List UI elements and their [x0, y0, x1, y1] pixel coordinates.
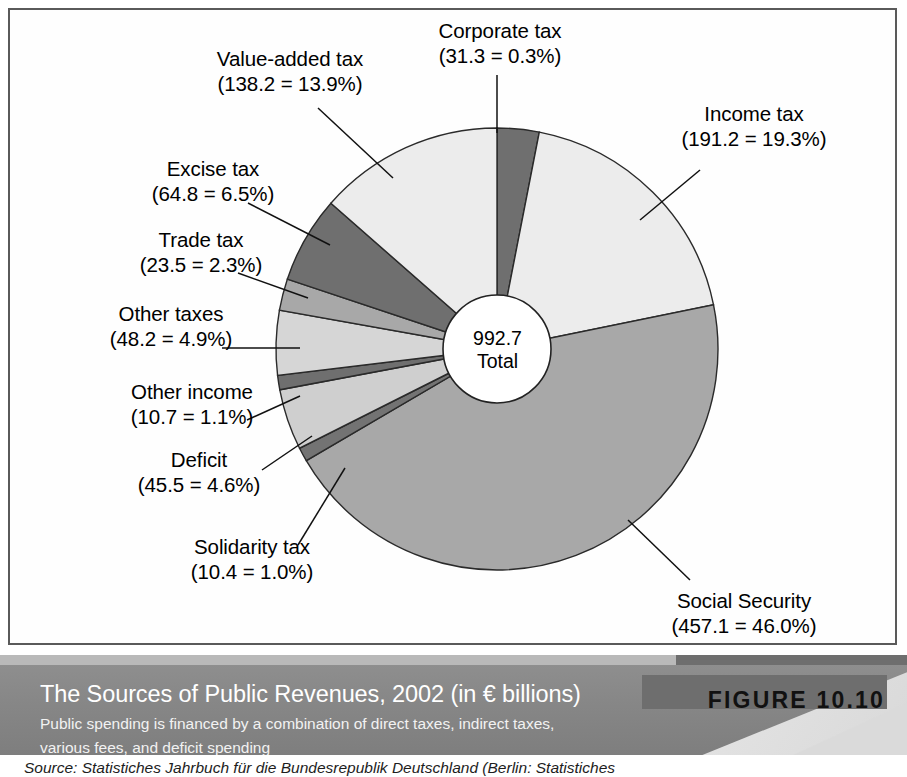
label-excise-tax: Excise tax (64.8 = 6.5%)	[108, 156, 318, 206]
label-solidarity-tax: Solidarity tax (10.4 = 1.0%)	[146, 534, 358, 584]
label-social-security-detail: (457.1 = 46.0%)	[624, 613, 864, 638]
label-solidarity-tax-detail: (10.4 = 1.0%)	[146, 559, 358, 584]
label-income-tax: Income tax (191.2 = 19.3%)	[638, 101, 870, 151]
label-value-added-tax: Value-added tax (138.2 = 13.9%)	[182, 46, 398, 96]
label-income-tax-name: Income tax	[638, 101, 870, 126]
label-corporate-tax: Corporate tax (31.3 = 0.3%)	[405, 18, 595, 68]
label-solidarity-tax-name: Solidarity tax	[146, 534, 358, 559]
label-trade-tax: Trade tax (23.5 = 2.3%)	[98, 227, 304, 277]
label-deficit-detail: (45.5 = 4.6%)	[96, 472, 302, 497]
label-deficit-name: Deficit	[96, 447, 302, 472]
label-value-added-tax-detail: (138.2 = 13.9%)	[182, 71, 398, 96]
label-value-added-tax-name: Value-added tax	[182, 46, 398, 71]
leader-value-added-tax	[318, 108, 393, 178]
label-trade-tax-detail: (23.5 = 2.3%)	[98, 252, 304, 277]
label-other-taxes-name: Other taxes	[60, 301, 282, 326]
figure-caption-band: FIGURE 10.10 The Sources of Public Reven…	[0, 655, 907, 755]
figure-number-label: FIGURE 10.10	[635, 687, 885, 714]
center-total-value: 992.7	[473, 327, 522, 349]
label-trade-tax-name: Trade tax	[98, 227, 304, 252]
figure-subtitle-line-2: various fees, and deficit spending	[40, 739, 270, 755]
pie-center-label: 992.7 Total	[440, 327, 555, 373]
label-other-taxes: Other taxes (48.2 = 4.9%)	[60, 301, 282, 351]
label-other-income-detail: (10.7 = 1.1%)	[80, 404, 304, 429]
leader-social-security	[628, 520, 690, 580]
label-income-tax-detail: (191.2 = 19.3%)	[638, 126, 870, 151]
label-other-income-name: Other income	[80, 379, 304, 404]
label-deficit: Deficit (45.5 = 4.6%)	[96, 447, 302, 497]
label-other-income: Other income (10.7 = 1.1%)	[80, 379, 304, 429]
label-corporate-tax-name: Corporate tax	[405, 18, 595, 43]
label-excise-tax-detail: (64.8 = 6.5%)	[108, 181, 318, 206]
label-social-security-name: Social Security	[624, 588, 864, 613]
label-other-taxes-detail: (48.2 = 4.9%)	[60, 326, 282, 351]
label-corporate-tax-detail: (31.3 = 0.3%)	[405, 43, 595, 68]
label-excise-tax-name: Excise tax	[108, 156, 318, 181]
figure-subtitle-line-1: Public spending is financed by a combina…	[40, 715, 554, 733]
figure-title: The Sources of Public Revenues, 2002 (in…	[40, 681, 581, 708]
label-social-security: Social Security (457.1 = 46.0%)	[624, 588, 864, 638]
center-total-caption: Total	[477, 350, 518, 372]
figure-source-note: Source: Statistiches Jahrbuch für die Bu…	[24, 759, 884, 777]
